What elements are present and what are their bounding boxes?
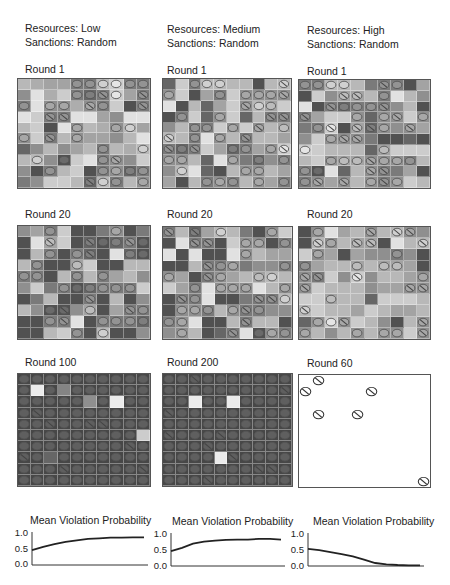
agent-cell [176,177,189,188]
agent-cell [176,430,189,441]
violation-icon [338,156,350,166]
agent-cell [202,261,215,272]
sanctioned-violation-icon [163,227,175,237]
sanctions-label: Sanctions: Random [25,35,117,49]
agent-cell [299,123,312,134]
agent-cell [279,328,292,339]
agent-cell [240,396,253,407]
agent-cell [58,419,71,430]
agent-cell [137,112,150,123]
agent-cell [189,294,202,305]
violation-icon [124,79,136,89]
violation-probability-line [32,537,144,550]
agent-cell [417,80,430,91]
violation-icon [253,90,265,100]
agent-cell [312,409,325,420]
agent-cell [378,465,391,476]
agent-cell [189,166,202,177]
agent-cell [312,283,325,294]
agent-cell [215,441,228,452]
agent-cell [215,283,228,294]
agent-cell [227,441,240,452]
agent-cell [265,166,278,177]
agent-cell [31,316,44,327]
violation-icon [176,452,188,462]
agent-cell [351,102,364,113]
agent-cell [391,145,404,156]
agent-cell [299,328,312,339]
agent-cell [266,385,279,396]
violation-icon [71,475,83,485]
agent-cell [299,465,312,476]
agent-cell [338,283,351,294]
agent-cell [124,123,137,134]
violation-icon [71,464,83,474]
sanctioned-violation-icon [299,283,311,293]
violation-icon [266,385,278,395]
sanctioned-violation-icon [84,237,96,247]
agent-cell [325,166,338,177]
sanctioned-violation-icon [325,102,337,112]
agent-cell [227,374,240,385]
agent-grid-medium-round-20 [162,226,293,340]
agent-cell [84,79,97,90]
agent-cell [137,90,150,101]
agent-cell [351,272,364,283]
agent-cell [97,144,110,155]
agent-cell [176,374,189,385]
violation-icon [176,430,188,440]
violation-icon [44,396,56,406]
agent-cell [176,261,189,272]
agent-cell [201,79,214,90]
agent-cell [163,374,176,385]
violation-icon [266,430,278,440]
agent-cell [240,272,253,283]
agent-cell [325,227,338,238]
agent-cell [84,237,97,248]
sanctioned-violation-icon [299,112,311,122]
agent-cell [391,305,404,316]
chart-title: Mean Violation Probability [30,514,151,526]
violation-icon [253,305,265,315]
agent-cell [279,283,292,294]
agent-cell [71,408,84,419]
agent-cell [97,305,110,316]
sanctioned-violation-icon [312,409,325,420]
violation-icon [110,90,122,100]
violation-icon [124,166,136,176]
sanctioned-violation-icon [365,156,377,166]
agent-cell [404,453,417,464]
agent-cell [214,166,227,177]
agent-cell [84,316,97,327]
agent-cell [189,328,202,339]
agent-cell [404,134,417,145]
agent-cell [44,249,57,260]
agent-cell [253,238,266,249]
violation-icon [18,441,30,451]
agent-cell [417,409,430,420]
agent-cell [404,112,417,123]
agent-cell [124,385,137,396]
violation-icon [176,396,188,406]
violation-icon [124,475,136,485]
agent-cell [279,385,292,396]
agent-cell [189,101,202,112]
sanctioned-violation-icon [417,317,429,327]
violation-icon [299,166,311,176]
agent-cell [279,238,292,249]
agent-cell [18,177,31,188]
agent-cell [202,317,215,328]
mean-violation-chart-low: Mean Violation Probability 1.0 0.5 0.0 [0,510,150,570]
agent-cell [163,305,176,316]
agent-cell [71,464,84,475]
violation-icon [202,464,214,474]
agent-cell [137,144,150,155]
agent-cell [110,112,123,123]
agent-cell [325,112,338,123]
agent-cell [189,155,202,166]
agent-cell [338,227,351,238]
agent-cell [189,261,202,272]
agent-cell [325,476,338,487]
violation-icon [84,79,96,89]
agent-cell [18,155,31,166]
